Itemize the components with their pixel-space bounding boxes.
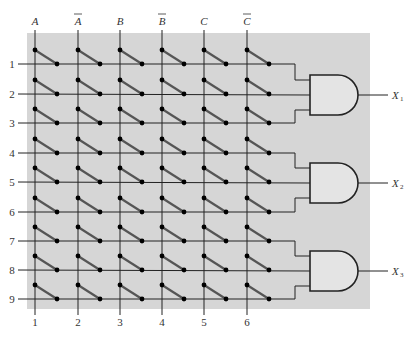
output-subscript: 2	[400, 183, 404, 191]
fuse-node-top	[160, 137, 165, 142]
fuse-node-top	[33, 225, 38, 230]
fuse-node-bottom	[98, 180, 103, 185]
fuse-node-top	[118, 196, 123, 201]
fuse-node-top	[33, 196, 38, 201]
fuse-node-top	[160, 254, 165, 259]
fuse-node-bottom	[55, 92, 60, 97]
fuse-node-top	[245, 107, 250, 112]
fuse-node-bottom	[98, 210, 103, 215]
fuse-node-top	[245, 254, 250, 259]
fuse-node-top	[118, 137, 123, 142]
column-number: 4	[159, 316, 165, 328]
fuse-node-bottom	[224, 92, 229, 97]
fuse-node-bottom	[55, 239, 60, 244]
column-number: 2	[75, 316, 81, 328]
fuse-node-top	[33, 166, 38, 171]
fuse-node-bottom	[55, 151, 60, 156]
fuse-node-bottom	[267, 239, 272, 244]
fuse-node-bottom	[182, 297, 187, 302]
fuse-node-bottom	[182, 62, 187, 67]
fuse-node-top	[33, 137, 38, 142]
row-label: 5	[9, 176, 15, 188]
fuse-node-bottom	[140, 239, 145, 244]
fuse-node-bottom	[55, 121, 60, 126]
fuse-node-bottom	[267, 151, 272, 156]
column-number: 1	[32, 316, 38, 328]
row-label: 4	[9, 147, 15, 159]
output-subscript: 1	[400, 95, 404, 103]
fuse-node-top	[76, 48, 81, 53]
row-label: 9	[9, 293, 15, 305]
fuse-node-top	[76, 225, 81, 230]
fuse-node-bottom	[182, 210, 187, 215]
fuse-node-top	[76, 166, 81, 171]
fuse-node-bottom	[140, 297, 145, 302]
fuse-node-bottom	[224, 62, 229, 67]
fuse-node-bottom	[140, 210, 145, 215]
fuse-node-top	[160, 107, 165, 112]
fuse-node-top	[33, 254, 38, 259]
fuse-node-bottom	[267, 180, 272, 185]
fuse-node-bottom	[182, 92, 187, 97]
output-subscript: 3	[400, 271, 404, 279]
input-label: C	[243, 15, 251, 27]
fuse-node-top	[202, 107, 207, 112]
fuse-node-top	[202, 283, 207, 288]
fuse-node-bottom	[98, 151, 103, 156]
fuse-node-bottom	[224, 180, 229, 185]
fuse-node-top	[76, 283, 81, 288]
fuse-node-bottom	[224, 151, 229, 156]
fuse-node-bottom	[98, 62, 103, 67]
fuse-node-bottom	[55, 268, 60, 273]
fuse-node-top	[245, 283, 250, 288]
fuse-node-top	[33, 107, 38, 112]
input-label: B	[159, 15, 166, 27]
column-number: 3	[117, 316, 123, 328]
fuse-node-bottom	[267, 62, 272, 67]
fuse-node-bottom	[55, 62, 60, 67]
fuse-node-top	[118, 283, 123, 288]
column-number: 5	[201, 316, 207, 328]
row-label: 2	[9, 88, 15, 100]
fuse-node-bottom	[140, 180, 145, 185]
fuse-node-bottom	[140, 121, 145, 126]
row-label: 3	[9, 117, 15, 129]
fuse-node-top	[202, 137, 207, 142]
and-gate-icon	[310, 251, 358, 291]
fuse-node-bottom	[267, 268, 272, 273]
fuse-node-top	[202, 78, 207, 83]
fuse-node-top	[202, 196, 207, 201]
fuse-node-top	[76, 78, 81, 83]
fuse-node-top	[118, 107, 123, 112]
fuse-node-bottom	[182, 180, 187, 185]
fuse-node-bottom	[224, 121, 229, 126]
input-label: B	[117, 15, 124, 27]
and-gates	[310, 75, 388, 291]
column-number: 6	[244, 316, 250, 328]
fuse-node-bottom	[140, 62, 145, 67]
input-label: C	[200, 15, 208, 27]
row-label: 1	[9, 58, 15, 70]
fuse-node-top	[160, 166, 165, 171]
fuse-node-top	[245, 137, 250, 142]
fuse-node-top	[33, 78, 38, 83]
fuse-node-top	[245, 196, 250, 201]
fuse-node-top	[33, 48, 38, 53]
and-gate-icon	[310, 163, 358, 203]
fuse-node-bottom	[55, 180, 60, 185]
fuse-node-top	[160, 48, 165, 53]
fuse-node-bottom	[224, 239, 229, 244]
fuse-node-top	[118, 225, 123, 230]
fuse-node-bottom	[55, 210, 60, 215]
fuse-node-bottom	[55, 297, 60, 302]
fuse-node-top	[160, 196, 165, 201]
fuse-node-top	[202, 254, 207, 259]
output-label: X	[391, 177, 400, 189]
fuse-node-top	[76, 137, 81, 142]
fuse-node-top	[118, 254, 123, 259]
fuse-node-top	[160, 78, 165, 83]
fuse-node-top	[202, 225, 207, 230]
fuse-node-bottom	[267, 92, 272, 97]
fuse-node-bottom	[98, 92, 103, 97]
fuse-node-bottom	[267, 297, 272, 302]
